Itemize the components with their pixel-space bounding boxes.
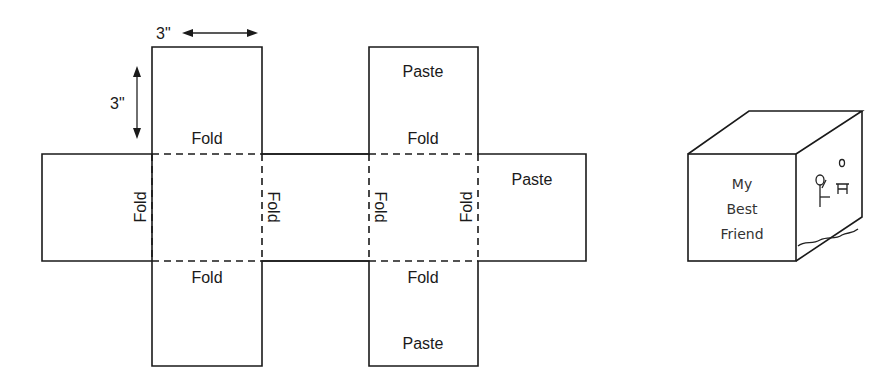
cube-top-face	[688, 111, 862, 154]
stick-figure-drawing	[816, 160, 849, 208]
label-fold-side-2: Fold	[265, 191, 282, 222]
ground-scribble	[798, 229, 858, 246]
label-paste-right: Paste	[512, 171, 553, 188]
label-fold-top-right: Fold	[407, 130, 438, 147]
label-fold-side-4: Fold	[458, 191, 475, 222]
cube-text-line2: Best	[726, 201, 758, 217]
cube-text-line1: My	[732, 176, 752, 192]
label-paste-top: Paste	[403, 63, 444, 80]
width-dimension-arrow	[182, 29, 258, 37]
cube-net-diagram: 3" 3" Fold Paste Fold Fold Fold Fold Fol…	[0, 0, 891, 390]
label-fold-side-1: Fold	[132, 191, 149, 222]
label-fold-top-left: Fold	[191, 130, 222, 147]
cube-text-line3: Friend	[720, 226, 763, 242]
label-paste-bottom: Paste	[403, 335, 444, 352]
height-dimension-label: 3"	[110, 95, 125, 112]
width-dimension-label: 3"	[156, 25, 171, 42]
label-fold-bottom-right: Fold	[407, 269, 438, 286]
label-fold-bottom-left: Fold	[191, 269, 222, 286]
height-dimension-arrow	[133, 66, 141, 139]
cube-illustration: My Best Friend	[688, 111, 862, 261]
label-fold-side-3: Fold	[372, 191, 389, 222]
